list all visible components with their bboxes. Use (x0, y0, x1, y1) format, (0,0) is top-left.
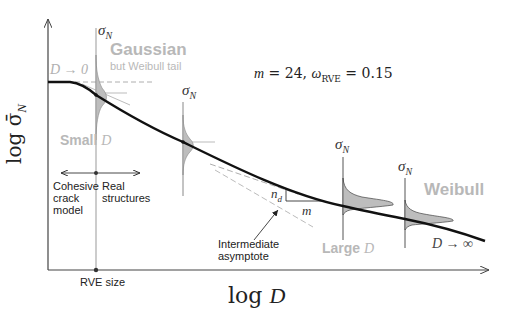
slope-m-label: m (302, 203, 311, 219)
x-axis-label-var: D (269, 283, 285, 308)
real-structures-label: Real structures (102, 180, 150, 204)
sigma-sub: N (342, 144, 349, 155)
x-axis-label-log: log (228, 283, 262, 308)
param-omega-value: = 0.15 (345, 65, 392, 81)
sigma-label-2: σN (182, 82, 196, 101)
d-to-infinity-label: D → ∞ (432, 236, 473, 252)
cohesive-line-1: Cohesive (53, 180, 99, 192)
y-axis-label: log σ̄N (2, 104, 30, 164)
sigma-label-3: σN (335, 136, 349, 155)
small-d-text: Small (60, 132, 97, 148)
gaussian-note: but Weibull tail (110, 60, 181, 72)
small-d-var: D (101, 133, 111, 148)
real-line-2: structures (102, 192, 150, 204)
slope-nd-label: nd (271, 186, 282, 204)
slope-nd-sub: d (278, 194, 283, 204)
rve-size-label: RVE size (80, 276, 125, 288)
sigma-label-4: σN (398, 158, 412, 177)
intermediate-line-2: asymptote (218, 250, 279, 262)
sigma-sub: N (405, 166, 412, 177)
intermediate-arrow (254, 210, 278, 240)
sigma-sub: N (189, 90, 196, 101)
d-to-zero-label: D → 0 (50, 62, 88, 78)
rve-point (94, 268, 98, 272)
real-line-1: Real (102, 180, 150, 192)
param-m-value: = 24, (269, 65, 307, 81)
parameters-label: m = 24, ωRVE = 0.15 (254, 65, 393, 84)
y-axis-label-sub: N (14, 104, 29, 113)
diagram-canvas (0, 0, 508, 318)
intermediate-line-1: Intermediate (218, 238, 279, 250)
size-effect-diagram: log σ̄N log D σN σN σN σN Gaussian but W… (0, 0, 508, 318)
x-axis-label: log D (228, 283, 285, 309)
cohesive-line-3: model (53, 204, 99, 216)
cohesive-crack-label: Cohesive crack model (53, 180, 99, 216)
gaussian-label: Gaussian (110, 40, 187, 60)
cohesive-line-2: crack (53, 192, 99, 204)
small-d-label: Small D (60, 132, 111, 149)
intermediate-asymptote-lines (82, 84, 313, 227)
intermediate-asymptote-label: Intermediate asymptote (218, 238, 279, 262)
sigma-label-1: σN (98, 22, 112, 41)
distribution-3 (343, 178, 393, 215)
curve-point-1 (94, 93, 98, 97)
param-omega: ω (311, 66, 321, 81)
curve-point-2 (181, 140, 185, 144)
param-m: m (254, 66, 264, 81)
large-d-text: Large (322, 240, 360, 256)
regime-arrows (61, 171, 140, 175)
large-d-label: Large D (322, 240, 374, 257)
param-omega-sub: RVE (321, 74, 341, 84)
y-axis-label-text: log σ̄ (2, 113, 26, 164)
weibull-label: Weibull (424, 180, 484, 200)
large-d-var: D (364, 241, 374, 256)
